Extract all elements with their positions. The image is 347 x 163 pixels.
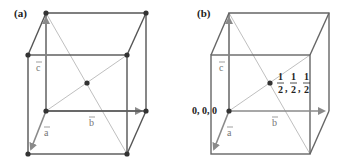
svg-text:2: 2 bbox=[291, 84, 296, 95]
vector-c-label: c bbox=[219, 62, 224, 73]
origin-label: 0, 0, 0 bbox=[192, 105, 217, 116]
unit-cell-figure: (a) c b a (b) bbox=[0, 0, 347, 163]
cell-front-face bbox=[28, 55, 127, 154]
vector-b-label: b bbox=[89, 117, 94, 128]
vector-a-label: a bbox=[44, 127, 49, 138]
panel-b-label: (b) bbox=[197, 7, 211, 20]
cell-front-face bbox=[211, 55, 310, 154]
svg-text:1: 1 bbox=[291, 71, 296, 82]
svg-text:1: 1 bbox=[278, 71, 283, 82]
center-coordinate-label: 1 2 , 1 2 , 1 2 bbox=[277, 71, 310, 95]
origin-atom bbox=[226, 108, 231, 113]
vector-c-label: c bbox=[36, 62, 41, 73]
vector-b-label: b bbox=[272, 117, 277, 128]
center-atom bbox=[84, 80, 89, 85]
svg-text:2: 2 bbox=[278, 84, 283, 95]
svg-text:1: 1 bbox=[304, 71, 309, 82]
svg-text:,: , bbox=[298, 83, 301, 94]
panel-b: (b) c b a 0, 0, 0 1 2 , 1 2 , 1 2 bbox=[192, 7, 329, 154]
cell-edges bbox=[46, 13, 146, 111]
panel-a: (a) c b a bbox=[14, 7, 149, 157]
svg-text:2: 2 bbox=[304, 84, 309, 95]
svg-text:,: , bbox=[285, 83, 288, 94]
cell-edges bbox=[229, 13, 329, 111]
vector-a-label: a bbox=[227, 127, 232, 138]
center-atom bbox=[267, 80, 272, 85]
panel-a-label: (a) bbox=[14, 7, 27, 20]
